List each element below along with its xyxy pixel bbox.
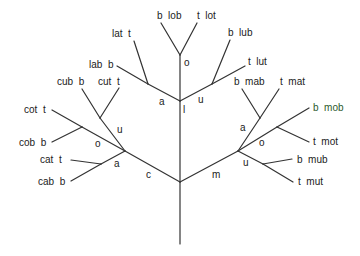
leaf-mat: t mat xyxy=(280,76,305,87)
leaf-cat: cat t xyxy=(40,154,62,165)
edge-lub xyxy=(212,40,230,84)
tree-diagram: c m l o u a a u o a o u cot t cob b cat … xyxy=(0,0,360,256)
leaf-cob: cob b xyxy=(19,137,47,148)
edge-mat xyxy=(260,89,279,118)
edge-cub xyxy=(82,89,100,118)
edge-cab xyxy=(71,164,101,181)
edge-label-m: m xyxy=(212,169,220,180)
leaf-mob: b mob xyxy=(313,102,344,113)
edge-mot xyxy=(277,127,309,142)
edge-m-u xyxy=(238,151,263,164)
edge-mub xyxy=(263,159,292,164)
edge-mob xyxy=(277,108,309,127)
leaf-lub: b lub xyxy=(228,27,253,38)
edge-label-l-u: u xyxy=(198,94,204,105)
edge-m xyxy=(180,151,238,182)
edge-cat xyxy=(71,160,101,164)
edge-cob xyxy=(52,127,82,142)
edge-lot xyxy=(180,23,197,55)
leaf-mub: b mub xyxy=(297,154,328,165)
leaf-mot: t mot xyxy=(313,136,338,147)
leaf-cub: cub b xyxy=(57,76,85,87)
edge-mab xyxy=(242,89,260,118)
edge-lob xyxy=(161,23,180,55)
edge-label-c: c xyxy=(146,169,151,180)
leaf-lot: t lot xyxy=(197,10,216,21)
leaf-cab: cab b xyxy=(38,176,66,187)
edge-label-c-a: a xyxy=(114,158,120,169)
edge-label-m-a: a xyxy=(240,122,246,133)
leaf-lut: t lut xyxy=(248,56,267,67)
edge-label-c-o: o xyxy=(95,138,101,149)
edge-cot xyxy=(52,110,82,127)
edge-l-u xyxy=(180,84,212,101)
edge-label-l: l xyxy=(183,104,185,115)
leaf-mut: t mut xyxy=(298,176,323,187)
leaf-cot: cot t xyxy=(24,104,46,115)
leaf-lob: b lob xyxy=(157,10,182,21)
edge-label-m-o: o xyxy=(259,137,265,148)
edge-label-m-u: u xyxy=(243,157,249,168)
leaf-lab: lab b xyxy=(89,59,114,70)
edge-label-l-o: o xyxy=(184,57,190,68)
edge-c-a xyxy=(101,151,125,164)
edge-label-c-u: u xyxy=(117,124,123,135)
leaf-mab: b mab xyxy=(234,76,265,87)
edge-label-l-a: a xyxy=(159,96,165,107)
leaf-cut: cut t xyxy=(98,76,120,87)
edge-c xyxy=(125,151,180,182)
edge-cut xyxy=(100,88,119,118)
leaf-lat: lat t xyxy=(112,28,131,39)
edge-mut xyxy=(263,164,293,182)
